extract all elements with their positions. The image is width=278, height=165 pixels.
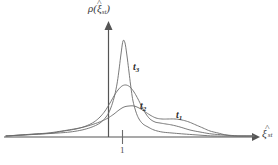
curve-label-t1-sub: 1 bbox=[179, 114, 183, 122]
x-axis-subscript: st bbox=[268, 131, 273, 139]
y-axis-xi-hat: ˄ξ bbox=[97, 3, 102, 14]
curve-label-t3: t3 bbox=[133, 62, 139, 74]
curve-label-t2-sub: 2 bbox=[143, 105, 147, 113]
plot-canvas bbox=[0, 0, 278, 165]
x-axis-hat-accent: ˄ bbox=[265, 123, 270, 132]
x-axis-arrow-icon bbox=[252, 133, 260, 141]
curve-t2 bbox=[6, 85, 254, 136]
axes-group bbox=[4, 21, 260, 144]
curve-t3 bbox=[6, 40, 254, 136]
probability-density-figure: ρ(˄ξst) ˄ξst t3 t2 t1 1 bbox=[0, 0, 278, 165]
y-axis-label: ρ(˄ξst) bbox=[88, 3, 110, 16]
y-axis-paren-close: ) bbox=[106, 2, 110, 14]
y-axis-hat-accent: ˄ bbox=[97, 0, 102, 7]
x-axis-xi-hat: ˄ξst bbox=[262, 128, 272, 139]
curve-label-t3-sub: 3 bbox=[136, 66, 140, 74]
y-axis-rho: ρ( bbox=[88, 2, 97, 14]
x-axis-label: ˄ξst bbox=[262, 128, 272, 139]
curves-group bbox=[6, 40, 254, 136]
curve-label-t1: t1 bbox=[176, 110, 182, 122]
curve-label-t2: t2 bbox=[140, 101, 146, 113]
y-axis-arrow-icon bbox=[105, 21, 113, 30]
x-axis-tick-label-1: 1 bbox=[120, 146, 125, 155]
curve-t1 bbox=[6, 106, 254, 136]
